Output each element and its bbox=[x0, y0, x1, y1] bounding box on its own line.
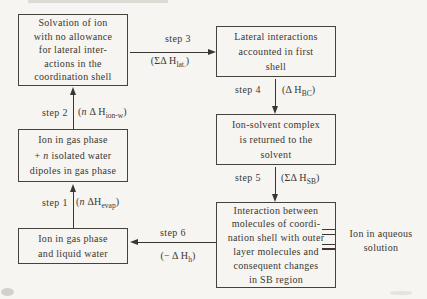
box-line: Solvation of ion bbox=[19, 16, 127, 30]
step6-formula: (− Δ Hh) bbox=[147, 250, 209, 264]
box-line: coordination shell bbox=[19, 70, 127, 84]
box-line: Ion in gas phase bbox=[19, 132, 127, 148]
box-line: consequent changes bbox=[217, 259, 335, 273]
box-line: Lateral interactions bbox=[217, 29, 335, 44]
arrow-shaft bbox=[73, 93, 74, 129]
arrow-head-right-icon bbox=[208, 49, 216, 55]
box-line: dipoles in gas phase bbox=[19, 163, 127, 179]
arrow-shaft bbox=[275, 79, 276, 107]
arrow-head-up-icon bbox=[70, 87, 76, 95]
box-line: actions in the bbox=[19, 57, 127, 71]
flowchart: Solvation of ion with no allowance for l… bbox=[0, 0, 427, 299]
aqueous-line: Ion in aqueous bbox=[337, 227, 425, 241]
box-solvation-no-lateral: Solvation of ion with no allowance for l… bbox=[18, 14, 128, 86]
box-ion-gas-water-dipoles: Ion in gas phase + n isolated water dipo… bbox=[18, 129, 128, 182]
box-line: is returned to the bbox=[217, 132, 335, 147]
step2-formula: (n Δ Hion-w) bbox=[78, 106, 127, 120]
step5-label: step 5 bbox=[219, 172, 261, 183]
box-interaction-outer-layer: Interaction between molecules of coordi-… bbox=[216, 202, 336, 288]
box-line: accounted in first bbox=[217, 44, 335, 59]
step3-formula: (ΣΔ Hlat.) bbox=[134, 55, 206, 69]
scan-artifact bbox=[390, 291, 412, 295]
box-line: shell bbox=[217, 59, 335, 74]
box-ion-gas-liquid-water: Ion in gas phase and liquid water bbox=[18, 228, 128, 264]
scan-artifact bbox=[1, 288, 14, 296]
box-line: for lateral inter- bbox=[19, 43, 127, 57]
box-line: Ion in gas phase bbox=[19, 231, 127, 246]
scan-artifact bbox=[28, 0, 168, 3]
box-ion-solvent-complex: Ion-solvent complex is returned to the s… bbox=[216, 114, 336, 165]
box-line: solvent bbox=[217, 147, 335, 162]
box-line: with no allowance bbox=[19, 30, 127, 44]
arrow-shaft bbox=[130, 52, 208, 53]
arrow-head-up-icon bbox=[70, 184, 76, 192]
box-line: Interaction between bbox=[217, 204, 335, 218]
aqueous-solution-label: Ion in aqueous solution bbox=[337, 227, 425, 254]
arrow-shaft bbox=[138, 242, 216, 243]
box-line: nation shell with outer bbox=[217, 231, 335, 245]
equivalence-dash bbox=[322, 248, 335, 249]
box-line: Ion-solvent complex bbox=[217, 117, 335, 132]
box-line: + n isolated water bbox=[19, 148, 127, 164]
arrow-shaft bbox=[275, 167, 276, 195]
step1-formula: (n ΔHevap) bbox=[76, 196, 119, 210]
step2-label: step 2 bbox=[26, 107, 68, 118]
step5-formula: (ΣΔ HSB) bbox=[281, 172, 319, 186]
box-line: in SB region bbox=[217, 273, 335, 287]
step6-label: step 6 bbox=[141, 227, 205, 238]
step4-formula: (Δ HBC) bbox=[282, 84, 315, 98]
step3-label: step 3 bbox=[146, 33, 210, 44]
box-line: and liquid water bbox=[19, 246, 127, 261]
arrow-shaft bbox=[73, 190, 74, 228]
arrow-head-down-icon bbox=[272, 194, 278, 202]
box-line: molecules of coordi- bbox=[217, 217, 335, 231]
arrow-head-down-icon bbox=[272, 106, 278, 114]
box-lateral-first-shell: Lateral interactions accounted in first … bbox=[216, 26, 336, 77]
equivalence-dash bbox=[322, 244, 335, 245]
equivalence-dash bbox=[322, 229, 335, 230]
step4-label: step 4 bbox=[219, 84, 261, 95]
equivalence-dash bbox=[322, 234, 335, 235]
step1-label: step 1 bbox=[26, 197, 68, 208]
aqueous-line: solution bbox=[337, 241, 425, 255]
arrow-head-left-icon bbox=[130, 239, 138, 245]
box-line: layer molecules and bbox=[217, 245, 335, 259]
